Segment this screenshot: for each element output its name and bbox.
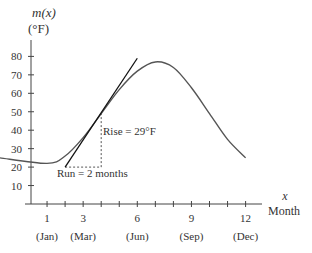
temperature-curve bbox=[0, 62, 246, 164]
x-tick-label: 1 bbox=[44, 212, 50, 224]
y-tick-label: 20 bbox=[11, 161, 23, 173]
y-tick-label: 60 bbox=[11, 87, 23, 99]
x-tick-label: 12 bbox=[240, 212, 251, 224]
x-tick-month-label: (Jan) bbox=[36, 230, 58, 243]
x-tick-month-label: (Dec) bbox=[233, 230, 258, 243]
y-tick-label: 70 bbox=[11, 69, 23, 81]
y-tick-label: 50 bbox=[11, 106, 23, 118]
axes bbox=[25, 40, 262, 204]
y-tick-label: 10 bbox=[11, 180, 23, 192]
x-tick-label: 9 bbox=[189, 212, 195, 224]
x-tick-month-label: (Sep) bbox=[180, 230, 204, 243]
rise-label: Rise = 29°F bbox=[103, 125, 156, 137]
y-tick-label: 30 bbox=[11, 143, 23, 155]
x-axis-title: Month bbox=[268, 204, 300, 218]
x-tick-label: 3 bbox=[80, 212, 86, 224]
ticks: 10203040506070801(Jan)3(Mar)6(Jun)9(Sep)… bbox=[11, 50, 258, 243]
x-tick-label: 6 bbox=[135, 212, 141, 224]
y-axis-title: m(x) bbox=[32, 5, 56, 20]
x-tick-month-label: (Jun) bbox=[126, 230, 149, 243]
x-tick-month-label: (Mar) bbox=[70, 230, 96, 243]
x-axis-var: x bbox=[281, 189, 288, 203]
run-label: Run = 2 months bbox=[57, 167, 128, 179]
y-tick-label: 80 bbox=[11, 50, 23, 62]
plot-area bbox=[0, 58, 246, 167]
y-axis-unit: (°F) bbox=[28, 21, 49, 36]
chart: 10203040506070801(Jan)3(Mar)6(Jun)9(Sep)… bbox=[0, 0, 312, 253]
y-tick-label: 40 bbox=[11, 124, 23, 136]
